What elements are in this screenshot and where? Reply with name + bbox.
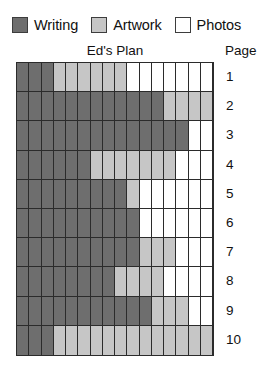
chart-cell-writing	[54, 121, 66, 149]
chart-cell-photos	[164, 267, 176, 295]
chart-row: 1	[17, 63, 213, 92]
chart-cell-artwork	[91, 151, 103, 179]
chart-cell-artwork	[201, 92, 213, 120]
chart-cell-artwork	[103, 326, 115, 355]
chart-cell-artwork	[66, 63, 78, 91]
chart-cell-artwork	[103, 151, 115, 179]
legend-entry-artwork: Artwork	[91, 17, 161, 33]
legend-swatch-writing-icon	[12, 17, 28, 33]
chart-cell-artwork	[164, 92, 176, 120]
chart-cell-writing	[91, 238, 103, 266]
chart-cell-writing	[66, 238, 78, 266]
chart-cell-photos	[201, 238, 213, 266]
chart-cell-writing	[66, 92, 78, 120]
chart-cell-artwork	[176, 297, 188, 325]
chart-cell-writing	[78, 209, 90, 237]
chart-cell-photos	[140, 209, 152, 237]
chart-cell-writing	[66, 121, 78, 149]
chart-cell-writing	[115, 209, 127, 237]
chart-cell-writing	[29, 297, 41, 325]
chart-cell-photos	[201, 151, 213, 179]
chart-cell-writing	[140, 121, 152, 149]
chart-cell-writing	[66, 267, 78, 295]
chart-cell-artwork	[54, 63, 66, 91]
chart-cell-photos	[201, 297, 213, 325]
chart-cell-photos	[189, 151, 201, 179]
chart-cell-artwork	[66, 326, 78, 355]
chart-cell-artwork	[152, 326, 164, 355]
chart-cell-artwork	[91, 63, 103, 91]
chart-row: 4	[17, 151, 213, 180]
chart-cell-writing	[42, 326, 54, 355]
chart-cell-writing	[103, 297, 115, 325]
chart-cell-photos	[176, 151, 188, 179]
chart-cell-photos	[176, 63, 188, 91]
chart-cell-writing	[78, 121, 90, 149]
chart-cell-artwork	[127, 267, 139, 295]
chart-cell-writing	[54, 267, 66, 295]
chart-cell-writing	[29, 267, 41, 295]
chart-cell-writing	[66, 151, 78, 179]
chart-cell-photos	[127, 63, 139, 91]
chart-cell-writing	[66, 297, 78, 325]
chart-cell-photos	[176, 267, 188, 295]
legend-label-writing: Writing	[34, 18, 78, 33]
chart-cell-writing	[127, 238, 139, 266]
chart-cell-writing	[115, 238, 127, 266]
chart-cell-writing	[176, 121, 188, 149]
legend-label-photos: Photos	[197, 18, 242, 33]
chart-cell-writing	[103, 238, 115, 266]
chart-cell-writing	[78, 297, 90, 325]
chart-cell-writing	[152, 92, 164, 120]
chart-cell-writing	[127, 121, 139, 149]
chart-cell-writing	[115, 180, 127, 208]
chart-cell-photos	[201, 63, 213, 91]
chart-cell-writing	[54, 180, 66, 208]
chart-cell-artwork	[115, 63, 127, 91]
chart-row: 8	[17, 267, 213, 296]
page-label: 2	[226, 100, 234, 114]
chart-cell-photos	[140, 63, 152, 91]
chart-cell-writing	[127, 297, 139, 325]
chart-cell-writing	[17, 238, 29, 266]
page-label: 3	[226, 129, 234, 143]
chart-cell-artwork	[127, 326, 139, 355]
chart-cell-writing	[164, 121, 176, 149]
chart-cell-artwork	[140, 238, 152, 266]
chart-cell-photos	[189, 238, 201, 266]
chart-cell-writing	[78, 238, 90, 266]
chart-row: 3	[17, 121, 213, 150]
chart-cell-artwork	[189, 92, 201, 120]
chart-cell-writing	[127, 92, 139, 120]
chart-cell-writing	[78, 180, 90, 208]
page-label: 7	[226, 245, 234, 259]
chart-cell-writing	[140, 92, 152, 120]
chart-cell-writing	[54, 297, 66, 325]
chart-cell-writing	[54, 92, 66, 120]
chart-cell-writing	[103, 267, 115, 295]
chart-cell-photos	[201, 209, 213, 237]
chart-cell-writing	[78, 267, 90, 295]
chart-cell-writing	[42, 92, 54, 120]
chart-cell-photos	[164, 180, 176, 208]
legend-label-artwork: Artwork	[113, 18, 161, 33]
chart-cell-writing	[42, 297, 54, 325]
chart-cell-artwork	[164, 326, 176, 355]
chart-cell-writing	[54, 209, 66, 237]
chart-cell-photos	[201, 121, 213, 149]
page-label: 1	[226, 70, 234, 84]
chart-cell-artwork	[78, 63, 90, 91]
page-label: 6	[226, 216, 234, 230]
chart-cell-writing	[54, 238, 66, 266]
chart-cell-writing	[91, 209, 103, 237]
chart-cell-photos	[189, 209, 201, 237]
chart-cell-photos	[140, 180, 152, 208]
chart-cell-artwork	[164, 238, 176, 266]
chart-cell-photos	[176, 180, 188, 208]
chart-cell-writing	[103, 209, 115, 237]
chart-cell-writing	[17, 63, 29, 91]
chart-cell-writing	[17, 209, 29, 237]
chart-cell-artwork	[115, 267, 127, 295]
chart-row: 7	[17, 238, 213, 267]
chart-cell-photos	[152, 180, 164, 208]
